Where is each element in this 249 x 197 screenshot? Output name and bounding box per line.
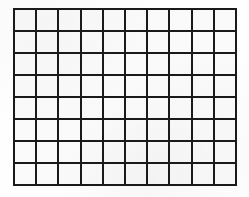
grid-cell-r8-c5: [104, 164, 124, 184]
grid-cell-r8-c3: [59, 164, 79, 184]
grid-cell-r1-c3: [59, 10, 79, 30]
grid-cell-r8-c10: [215, 164, 235, 184]
grid-cell-r6-c3: [59, 120, 79, 140]
grid-cell-r3-c1: [15, 54, 35, 74]
grid-cell-r1-c9: [193, 10, 213, 30]
grid-cell-r7-c8: [170, 142, 190, 162]
grid-cell-r5-c8: [170, 98, 190, 118]
page-canvas: [0, 0, 249, 197]
grid-cell-r6-c6: [126, 120, 146, 140]
grid-cell-r8-c1: [15, 164, 35, 184]
grid-cell-r3-c10: [215, 54, 235, 74]
grid-cell-r1-c6: [126, 10, 146, 30]
grid-cell-r5-c3: [59, 98, 79, 118]
grid-cell-r2-c4: [82, 32, 102, 52]
grid-cell-r5-c1: [15, 98, 35, 118]
grid-cell-r2-c2: [37, 32, 57, 52]
grid-cell-r2-c3: [59, 32, 79, 52]
grid-cell-r3-c3: [59, 54, 79, 74]
grid-cell-r2-c9: [193, 32, 213, 52]
grid-cell-r2-c10: [215, 32, 235, 52]
grid-cell-r5-c9: [193, 98, 213, 118]
grid-cell-r4-c6: [126, 76, 146, 96]
grid-cell-r6-c7: [148, 120, 168, 140]
grid-cell-r8-c8: [170, 164, 190, 184]
grid-cell-r4-c4: [82, 76, 102, 96]
grid-cell-r4-c3: [59, 76, 79, 96]
grid-cell-r8-c9: [193, 164, 213, 184]
grid-cell-r8-c4: [82, 164, 102, 184]
grid-cell-r3-c4: [82, 54, 102, 74]
grid-cell-r1-c7: [148, 10, 168, 30]
grid-cell-r6-c1: [15, 120, 35, 140]
grid-cell-r2-c1: [15, 32, 35, 52]
grid-cell-r6-c5: [104, 120, 124, 140]
blank-grid: [13, 8, 237, 186]
grid-cell-r5-c7: [148, 98, 168, 118]
grid-cell-r1-c5: [104, 10, 124, 30]
grid-cell-r7-c1: [15, 142, 35, 162]
grid-cell-r4-c2: [37, 76, 57, 96]
grid-cell-r4-c5: [104, 76, 124, 96]
grid-cell-r7-c10: [215, 142, 235, 162]
grid-cell-r1-c2: [37, 10, 57, 30]
grid-cell-r4-c1: [15, 76, 35, 96]
grid-cell-r4-c8: [170, 76, 190, 96]
grid-cell-r8-c2: [37, 164, 57, 184]
grid-cell-r1-c10: [215, 10, 235, 30]
grid-cell-r7-c2: [37, 142, 57, 162]
grid-cell-r4-c7: [148, 76, 168, 96]
grid-cell-r3-c9: [193, 54, 213, 74]
grid-cell-r1-c1: [15, 10, 35, 30]
grid-cell-r7-c7: [148, 142, 168, 162]
grid-cell-r7-c4: [82, 142, 102, 162]
grid-cell-r3-c5: [104, 54, 124, 74]
grid-cell-r6-c2: [37, 120, 57, 140]
grid-cell-r2-c7: [148, 32, 168, 52]
grid-cell-r1-c4: [82, 10, 102, 30]
grid-cell-r3-c8: [170, 54, 190, 74]
grid-cell-r8-c6: [126, 164, 146, 184]
grid-cell-r7-c3: [59, 142, 79, 162]
grid-cell-r3-c6: [126, 54, 146, 74]
grid-cell-r3-c7: [148, 54, 168, 74]
grid-cell-r5-c5: [104, 98, 124, 118]
grid-cell-r6-c8: [170, 120, 190, 140]
grid-cell-r5-c4: [82, 98, 102, 118]
grid-cell-r7-c9: [193, 142, 213, 162]
grid-cell-r2-c8: [170, 32, 190, 52]
grid-cell-r7-c5: [104, 142, 124, 162]
grid-cell-r5-c2: [37, 98, 57, 118]
grid-cell-r6-c4: [82, 120, 102, 140]
grid-cell-r6-c9: [193, 120, 213, 140]
grid-cell-r2-c5: [104, 32, 124, 52]
grid-cell-r4-c10: [215, 76, 235, 96]
grid-cell-r6-c10: [215, 120, 235, 140]
grid-cell-r2-c6: [126, 32, 146, 52]
grid-cell-r4-c9: [193, 76, 213, 96]
grid-cell-r3-c2: [37, 54, 57, 74]
grid-cell-r7-c6: [126, 142, 146, 162]
grid-cell-r5-c10: [215, 98, 235, 118]
grid-cell-r5-c6: [126, 98, 146, 118]
grid-cell-r8-c7: [148, 164, 168, 184]
grid-cell-r1-c8: [170, 10, 190, 30]
